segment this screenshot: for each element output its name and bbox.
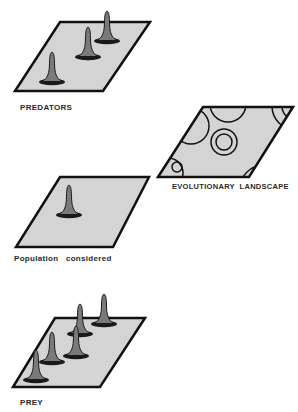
prey-panel [13, 294, 145, 387]
diagram-canvas [0, 0, 298, 412]
population-panel [16, 177, 149, 247]
prey-label: PREY [20, 398, 43, 407]
predators-label: PREDATORS [20, 103, 72, 112]
landscape-plane [158, 107, 293, 177]
landscape-panel [153, 82, 298, 213]
landscape-label: EVOLUTIONARY LANDSCAPE [172, 182, 289, 191]
predators-panel [15, 11, 150, 91]
population-plane [16, 177, 149, 247]
prey-peak-1 [91, 294, 117, 327]
population-label: Population considered [14, 254, 112, 263]
